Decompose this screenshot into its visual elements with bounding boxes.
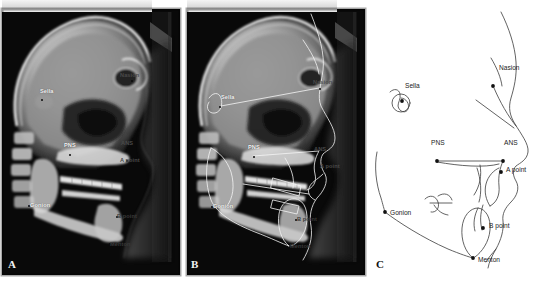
landmark-label-gonion: Gonion [213, 203, 233, 209]
dot-b-point [481, 226, 485, 230]
c-label-nasion: Nasion [499, 64, 520, 71]
landmark-label-menton: Menton [290, 243, 310, 249]
dot-ans [501, 159, 505, 163]
c-label-menton: Menton [478, 256, 500, 263]
dot-a-point [499, 170, 503, 174]
landmark-label-ans: ANS [314, 146, 326, 152]
c-label-pns: PNS [431, 139, 445, 146]
landmark-label-sella: Sella [221, 94, 235, 100]
c-label-ans: ANS [504, 139, 518, 146]
dot-gonion [383, 210, 387, 214]
landmark-label-b-point: B point [297, 216, 317, 222]
panel-b-image [185, 0, 367, 284]
panel-a-image [0, 0, 182, 284]
dot-sella [400, 99, 404, 103]
landmark-label-menton: Menton [110, 241, 130, 247]
panel-letter-a: A [8, 258, 16, 270]
landmark-label-a-point: A point [120, 157, 140, 163]
c-label-a-point: A point [506, 166, 526, 173]
landmark-label-gonion: Gonion [30, 202, 50, 208]
c-label-sella: Sella [405, 82, 420, 89]
landmark-label-a-point: A point [320, 163, 340, 169]
dot-nasion [491, 84, 495, 88]
panel-b-radiograph-with-tracing: Sella Nasion PNS ANS A point Gonion B po… [185, 0, 367, 284]
c-label-b-point: B point [489, 222, 510, 229]
cephalometric-figure: Sella Nasion PNS ANS A point Gonion B po… [0, 0, 541, 284]
dot-pns [435, 159, 439, 163]
c-label-gonion: Gonion [390, 209, 411, 216]
landmark-label-b-point: B point [117, 213, 137, 219]
panel-c-tracing-drawing: Sella Nasion PNS ANS A point Gonion B po… [368, 0, 541, 284]
landmark-label-nasion: Nasion [120, 72, 139, 78]
panel-letter-c: C [376, 258, 384, 270]
landmark-label-pns: PNS [64, 142, 76, 148]
landmark-label-sella: Sella [40, 88, 54, 94]
landmark-label-nasion: Nasion [313, 79, 332, 85]
panel-a-radiograph: Sella Nasion PNS ANS A point Gonion B po… [0, 0, 182, 284]
dot-menton [471, 256, 475, 260]
landmark-label-ans: ANS [121, 140, 133, 146]
landmark-label-pns: PNS [248, 144, 260, 150]
panel-letter-b: B [191, 258, 199, 270]
